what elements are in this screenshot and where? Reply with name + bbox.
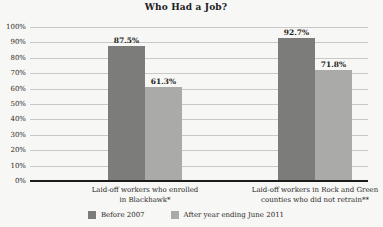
y-axis-tick-label: 70%: [0, 69, 26, 77]
bar-0-0: [108, 46, 145, 181]
gridline: [30, 42, 368, 43]
y-axis-tick-label: 90%: [0, 38, 26, 46]
legend-label: After year ending June 2011: [184, 211, 284, 219]
y-axis-tick-label: 100%: [0, 23, 26, 31]
y-axis-tick-label: 20%: [0, 146, 26, 154]
plot-area: 87.5%61.3%92.7%71.8%: [30, 27, 368, 181]
legend-label: Before 2007: [101, 211, 145, 219]
legend-swatch-icon: [171, 211, 179, 219]
bar-1-1: [315, 70, 352, 181]
x-axis-baseline: [30, 180, 368, 182]
chart-legend: Before 2007After year ending June 2011: [0, 211, 372, 219]
bar-0-1: [278, 38, 315, 181]
x-axis-category-label: Laid-off workers in Rock and Green count…: [230, 186, 383, 205]
y-axis-tick-label: 80%: [0, 54, 26, 62]
y-axis-tick-label: 40%: [0, 115, 26, 123]
y-axis-tick-label: 0%: [0, 177, 26, 185]
gridline: [30, 58, 368, 59]
y-axis-tick-label: 30%: [0, 131, 26, 139]
bar-1-0: [145, 87, 182, 181]
bar-value-label: 87.5%: [108, 36, 145, 45]
legend-item-0[interactable]: Before 2007: [88, 211, 145, 219]
bar-value-label: 71.8%: [315, 60, 352, 69]
gridline: [30, 27, 368, 28]
y-axis-tick-label: 60%: [0, 85, 26, 93]
y-axis-tick-label: 10%: [0, 162, 26, 170]
legend-item-1[interactable]: After year ending June 2011: [171, 211, 284, 219]
x-axis-category-label: Laid-off workers who enrolled in Blackha…: [60, 186, 230, 205]
bar-value-label: 92.7%: [278, 28, 315, 37]
y-axis-tick-label: 50%: [0, 100, 26, 108]
chart-title: Who Had a Job?: [0, 2, 372, 12]
legend-swatch-icon: [88, 211, 96, 219]
bar-value-label: 61.3%: [145, 77, 182, 86]
